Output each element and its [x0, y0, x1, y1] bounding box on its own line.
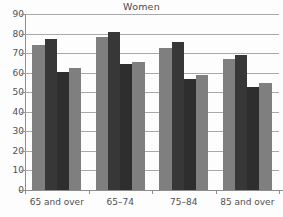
bar [223, 59, 235, 190]
bar [96, 37, 108, 190]
bar [184, 79, 196, 190]
bar [120, 64, 132, 190]
y-tick-mark-50 [21, 92, 25, 93]
bar [132, 62, 144, 190]
y-tick-mark-30 [21, 131, 25, 132]
bar [196, 75, 208, 190]
x-tick-mark [25, 190, 26, 194]
y-tick-mark-10 [21, 170, 25, 171]
y-tick-mark-40 [21, 112, 25, 113]
x-tick-mark [89, 190, 90, 194]
bar [235, 55, 247, 190]
x-tick-mark [279, 190, 280, 194]
x-tick-label-0: 65 and over [30, 197, 84, 207]
x-tick-label-1: 65–74 [107, 197, 134, 207]
bar-group [152, 14, 216, 190]
x-tick-mark [152, 190, 153, 194]
bar [259, 83, 271, 190]
y-tick-mark-80 [21, 34, 25, 35]
bar-group [216, 14, 280, 190]
bar [247, 87, 259, 190]
bar-group [89, 14, 153, 190]
bar [172, 42, 184, 190]
plot-area [25, 14, 279, 190]
x-tick-label-3: 85 and over [220, 197, 274, 207]
bar [57, 72, 69, 190]
bar [69, 68, 81, 190]
y-tick-mark-70 [21, 53, 25, 54]
bar [159, 48, 171, 190]
bar [32, 45, 44, 190]
chart-figure: Women 0102030405060708090 65 and over65–… [0, 0, 283, 217]
bar [108, 32, 120, 190]
bar-group [25, 14, 89, 190]
x-tick-mark [216, 190, 217, 194]
y-tick-mark-60 [21, 73, 25, 74]
y-tick-mark-90 [21, 14, 25, 15]
chart-title: Women [0, 1, 283, 12]
y-tick-mark-20 [21, 151, 25, 152]
x-tick-label-2: 75–84 [170, 197, 197, 207]
bar [45, 39, 57, 190]
